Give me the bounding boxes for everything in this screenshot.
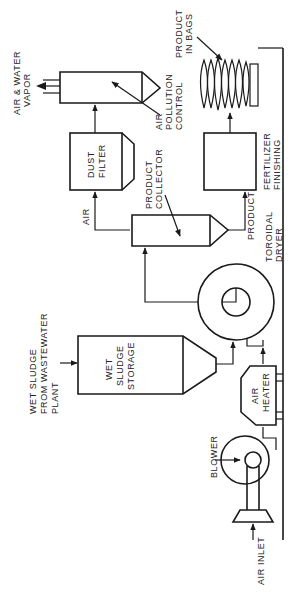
toroidal-dryer-label: TOROIDAL DRYER [264,209,284,262]
fertilizer-finishing-unit [204,113,256,190]
air-pollution-control-label: AIR POLLUTION CONTROL [154,70,184,130]
air-heater-label: AIR HEATER [250,373,271,412]
wet-sludge-storage-unit [78,336,233,394]
product-collector-label: PRODUCT COLLECTOR [144,149,164,209]
blower-label: BLOWER [209,435,219,478]
air-label: AIR [81,208,91,225]
air-pollution-control-unit [60,72,160,115]
flow-collector-to-fertilizer [228,192,245,230]
flow-dryer-to-collector [145,248,198,302]
blower-unit [215,436,273,522]
flow-collector-to-dustfilter [95,192,130,230]
dryer-outlet-pipe [247,338,263,346]
wet-sludge-source-label: WET SLUDGE FROM WASTEWATER PLANT [28,310,60,414]
product-label: PRODUCT [246,191,256,240]
exhaust-arrow-icon [36,82,46,90]
product-in-bags-label: PRODUCT IN BAGS [174,6,194,58]
dust-filter-label: DUST FILTER [86,144,107,178]
wet-sludge-storage-label: WET SLUDGE STORAGE [104,342,136,390]
air-water-vapor-label: AIR & WATER VAPOR [12,48,32,115]
fertilizer-finishing-label: FERTILIZER FINISHING [262,130,282,190]
air-water-vapor-outlet [36,80,60,93]
product-bags [197,37,283,110]
toroidal-dryer-unit [198,264,274,340]
process-flow-diagram: AIR & WATER VAPOR AIR POLLUTION CONTROL … [0,0,304,598]
air-inlet-label: AIR INLET [256,537,266,585]
